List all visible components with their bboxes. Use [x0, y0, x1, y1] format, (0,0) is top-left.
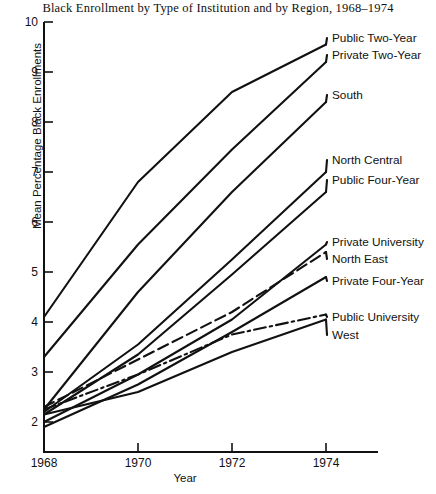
chart-figure: Black Enrollment by Type of Institution … — [0, 0, 436, 494]
label-leader-lines — [326, 38, 327, 335]
series-line — [44, 172, 326, 412]
series-line — [44, 62, 326, 357]
series-line — [44, 45, 326, 318]
axis-lines — [44, 22, 378, 452]
series-line — [44, 252, 326, 407]
plot-area — [0, 0, 436, 494]
data-series-lines — [44, 45, 326, 428]
series-line — [44, 315, 326, 410]
